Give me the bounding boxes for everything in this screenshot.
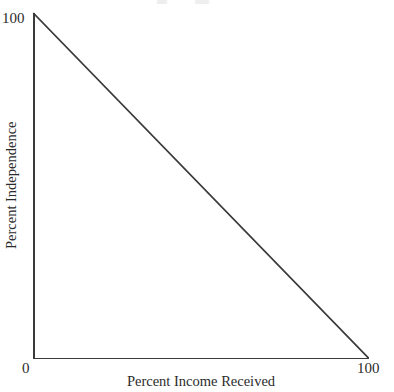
x-axis-title: Percent Income Received bbox=[33, 374, 369, 389]
data-line-tradeoff bbox=[34, 14, 368, 358]
y-axis-title: Percent Independence bbox=[0, 13, 22, 358]
plot-area bbox=[0, 0, 394, 392]
chart-figure: 100 0 100 Percent Income Received Percen… bbox=[0, 0, 394, 392]
x-axis-line bbox=[33, 358, 369, 360]
x-axis-tick-0: 0 bbox=[22, 361, 30, 376]
y-axis-title-text: Percent Independence bbox=[4, 122, 19, 250]
cropped-caption-artifact bbox=[150, 0, 260, 4]
y-axis-line bbox=[33, 13, 35, 359]
